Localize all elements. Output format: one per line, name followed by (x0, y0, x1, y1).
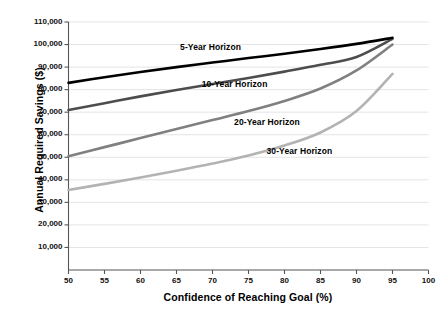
x-tick-label-3: 65 (162, 276, 192, 285)
x-tick-label-8: 90 (342, 276, 372, 285)
y-tick-label-3: 40,000 (7, 174, 63, 183)
series-label-10-year-horizon: 10-Year Horizon (202, 79, 268, 89)
series-label-20-year-horizon: 20-Year Horizon (234, 117, 300, 127)
series-line-30-year-horizon (69, 74, 393, 190)
x-tick-label-0: 50 (54, 276, 84, 285)
x-tick-label-6: 80 (270, 276, 300, 285)
y-tick-label-6: 70,000 (7, 107, 63, 116)
y-tick-label-2: 30,000 (7, 197, 63, 206)
x-tick-label-4: 70 (198, 276, 228, 285)
chart-figure: Annual Required Savings ($) Confidence o… (0, 0, 447, 318)
y-tick-label-10: 110,000 (7, 17, 63, 26)
y-tick-label-5: 60,000 (7, 129, 63, 138)
y-tick-label-8: 90,000 (7, 62, 63, 71)
x-tick-label-9: 95 (378, 276, 408, 285)
y-tick-label-7: 80,000 (7, 84, 63, 93)
x-tick-label-5: 75 (234, 276, 264, 285)
y-tick-label-1: 20,000 (7, 219, 63, 228)
x-tick-label-1: 55 (90, 276, 120, 285)
x-axis-title: Confidence of Reaching Goal (%) (68, 291, 428, 303)
x-tick-label-7: 85 (306, 276, 336, 285)
y-tick-label-9: 100,000 (7, 39, 63, 48)
series-label-5-year-horizon: 5-Year Horizon (180, 42, 241, 52)
x-tick-label-10: 100 (414, 276, 444, 285)
y-tick-label-4: 50,000 (7, 152, 63, 161)
x-tick-label-2: 60 (126, 276, 156, 285)
y-tick-label-0: 10,000 (7, 242, 63, 251)
series-label-30-year-horizon: 30-Year Horizon (267, 146, 333, 156)
